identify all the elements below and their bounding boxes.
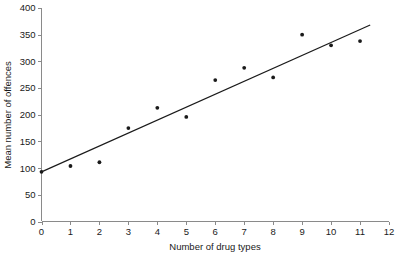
- y-axis-title: Mean number of offences: [2, 61, 13, 169]
- y-tick-label: 250: [20, 82, 36, 93]
- y-tick-label: 0: [30, 216, 35, 227]
- data-point: [40, 170, 44, 174]
- data-point: [213, 78, 217, 82]
- data-point: [358, 39, 362, 43]
- data-point: [329, 43, 333, 47]
- y-tick-label: 100: [20, 163, 36, 174]
- y-tick-label: 150: [20, 136, 36, 147]
- x-tick-label: 9: [299, 226, 304, 237]
- data-point: [155, 106, 159, 110]
- x-tick-label: 3: [126, 226, 131, 237]
- data-point: [69, 164, 73, 168]
- x-tick-label: 0: [39, 226, 44, 237]
- chart-canvas: 050100150200250300350400 Mean number of …: [0, 0, 405, 257]
- data-point: [98, 160, 102, 164]
- data-point: [242, 66, 246, 70]
- x-tick-label: 10: [326, 226, 337, 237]
- x-tick-label: 8: [271, 226, 276, 237]
- y-tick-label: 50: [25, 189, 36, 200]
- data-point: [126, 126, 130, 130]
- x-axis-title: Number of drug types: [169, 241, 261, 252]
- y-tick-label: 200: [20, 109, 36, 120]
- scatter-chart: 050100150200250300350400 Mean number of …: [0, 0, 405, 257]
- y-tick-label: 300: [20, 56, 36, 67]
- x-tick-label: 12: [384, 226, 395, 237]
- data-point: [271, 75, 275, 79]
- x-tick-label: 6: [213, 226, 218, 237]
- x-tick-label: 4: [155, 226, 160, 237]
- x-tick-label: 1: [68, 226, 73, 237]
- chart-background: [0, 0, 405, 257]
- x-tick-label: 11: [355, 226, 365, 237]
- y-tick-label: 350: [20, 29, 36, 40]
- x-tick-label: 5: [184, 226, 189, 237]
- data-point: [300, 33, 304, 37]
- x-tick-label: 7: [242, 226, 247, 237]
- x-tick-label: 2: [97, 226, 102, 237]
- y-tick-label: 400: [20, 2, 36, 13]
- data-point: [184, 115, 188, 119]
